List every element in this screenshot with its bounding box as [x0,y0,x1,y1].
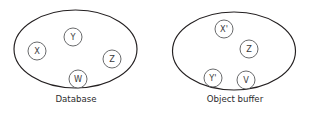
ob-node-x-prime-label: X' [220,24,228,34]
ob-node-z-label: Z [246,44,252,54]
db-node-w[interactable]: W [69,70,87,88]
ob-node-y-prime-label: Y' [208,73,216,83]
ob-node-z[interactable]: Z [240,40,258,58]
diagram-canvas: XYZWDatabaseX'ZY'VObject buffer [0,0,311,116]
ob-node-v-label: V [243,75,249,85]
caption-object-buffer: Object buffer [207,94,264,104]
group-object-buffer: X'ZY'VObject buffer [173,12,296,104]
db-node-y[interactable]: Y [64,28,82,46]
db-node-w-label: W [74,74,82,84]
ob-node-y-prime[interactable]: Y' [204,69,222,87]
caption-database: Database [55,94,96,104]
diagram-svg: XYZWDatabaseX'ZY'VObject buffer [0,0,311,116]
db-node-y-label: Y [69,32,76,42]
ob-node-x-prime[interactable]: X' [215,20,233,38]
db-node-z[interactable]: Z [103,50,121,68]
ellipse-object-buffer[interactable] [173,12,296,90]
db-node-z-label: Z [109,54,115,64]
group-database: XYZWDatabase [14,10,137,104]
db-node-x-label: X [34,46,40,56]
groups-layer: XYZWDatabaseX'ZY'VObject buffer [14,10,296,104]
db-node-x[interactable]: X [28,42,46,60]
ob-node-v[interactable]: V [237,71,255,89]
